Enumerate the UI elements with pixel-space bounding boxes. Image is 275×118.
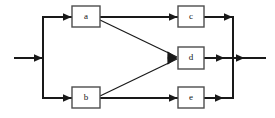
node-c-label: c [189,11,193,21]
edge-split-bus-to-b [43,94,72,102]
node-e-label: e [189,92,193,102]
flow-diagram: a b c d e [0,0,275,118]
edge-c-to-merge-bus [204,13,233,21]
arrowhead-icon-input [34,54,43,62]
flow-diagram-canvas: a b c d e [0,0,275,118]
arrowhead-icon-e-in [169,94,178,102]
arrowhead-icon-d-out [216,54,225,62]
arrowhead-icon-e-out [215,94,224,102]
arrowhead-icon-c-in [169,13,178,21]
node-c[interactable]: c [178,6,204,27]
arrowhead-icon-b-in [63,94,72,102]
node-d[interactable]: d [178,47,204,69]
b-to-d-line [100,59,177,96]
edge-b-to-e [100,94,178,102]
edge-split-bus-to-a [43,13,72,21]
edge-a-to-d [100,20,178,58]
arrowhead-icon-d-in-top [167,51,177,58]
edge-a-to-c [100,13,178,21]
arrowhead-icon-a-in [63,13,72,21]
arrowhead-icon-c-out [224,13,233,21]
a-to-d-line [100,20,177,57]
node-d-label: d [189,52,194,62]
edge-input-to-split-bus [14,54,43,62]
edge-e-to-merge-bus [204,94,233,102]
edge-d-to-merge-bus [204,54,233,62]
node-b-label: b [84,92,89,102]
arrowhead-icon-output [236,54,245,62]
edge-b-to-d [100,58,178,96]
node-b[interactable]: b [72,87,100,108]
node-a-label: a [84,11,88,21]
node-e[interactable]: e [178,87,204,108]
edge-merge-bus-to-output [233,54,266,62]
arrowhead-icon-d-in-bottom [167,58,177,65]
node-a[interactable]: a [72,6,100,27]
